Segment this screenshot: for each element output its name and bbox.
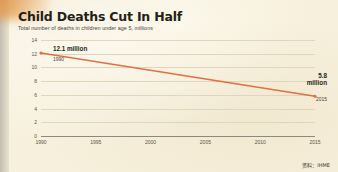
- x-axis-tick-label: 2010: [255, 139, 266, 145]
- chart-card: Child Deaths Cut In Half Total number of…: [9, 0, 338, 172]
- start-value-annotation: 12.1 million: [53, 45, 87, 52]
- chart-subtitle: Total number of deaths in children under…: [18, 25, 153, 31]
- source-credit: 资料：IHME: [302, 161, 330, 168]
- x-axis-tick-label: 2005: [200, 139, 211, 145]
- end-year-annotation: 2015: [283, 96, 327, 102]
- y-axis-tick-label: 14: [31, 37, 37, 43]
- end-value-unit: million: [283, 79, 327, 86]
- chart-screenshot: Child Deaths Cut In Half Total number of…: [0, 0, 338, 172]
- y-axis-tick-label: 2: [34, 119, 37, 125]
- page-edge-strip: [0, 0, 9, 172]
- y-axis-tick-label: 12: [31, 51, 37, 57]
- start-point-marker: [39, 51, 42, 54]
- plot-area: 02468101214 199019952000200520102015: [41, 40, 315, 136]
- y-axis-tick-label: 10: [31, 64, 37, 70]
- x-axis-tick-label: 2000: [145, 139, 156, 145]
- series-line-child-deaths: [41, 53, 315, 96]
- series-line-group: [41, 40, 315, 136]
- y-axis-tick-label: 4: [34, 106, 37, 112]
- gridline: [41, 136, 315, 137]
- start-year-annotation: 1990: [53, 56, 64, 62]
- x-axis-tick-label: 1995: [90, 139, 101, 145]
- x-axis-tick-label: 2015: [309, 139, 320, 145]
- chart-title: Child Deaths Cut In Half: [18, 9, 182, 24]
- y-axis-tick-label: 6: [34, 92, 37, 98]
- end-value-number: 5.8: [283, 72, 327, 79]
- x-axis-tick-label: 1990: [35, 139, 46, 145]
- end-value-annotation: 5.8 million: [283, 72, 327, 87]
- y-axis-tick-label: 8: [34, 78, 37, 84]
